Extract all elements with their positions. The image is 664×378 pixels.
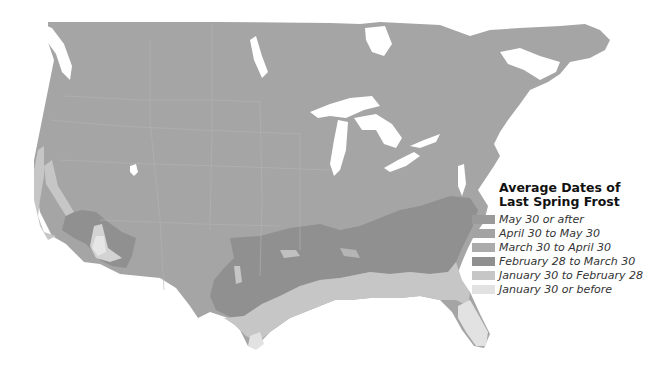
legend-item: April 30 to May 30 [472,226,662,240]
legend-title-line2: Last Spring Frost [499,195,662,209]
legend-title: Average Dates of Last Spring Frost [499,181,662,209]
legend-label: April 30 to May 30 [499,227,600,240]
legend-item: January 30 to February 28 [472,268,662,282]
legend-swatch [472,229,495,238]
legend-swatch [472,215,495,224]
legend-list: May 30 or after April 30 to May 30 March… [472,212,662,296]
legend-item: February 28 to March 30 [472,254,662,268]
legend-item: May 30 or after [472,212,662,226]
legend-label: January 30 or before [499,283,612,296]
legend-title-line1: Average Dates of [499,181,662,195]
legend: Average Dates of Last Spring Frost May 3… [472,181,662,296]
legend-label: February 28 to March 30 [499,255,635,268]
legend-label: March 30 to April 30 [499,241,611,254]
legend-label: May 30 or after [499,213,584,226]
legend-label: January 30 to February 28 [499,269,643,282]
legend-item: January 30 or before [472,282,662,296]
legend-swatch [472,243,495,252]
legend-swatch [472,257,495,266]
legend-item: March 30 to April 30 [472,240,662,254]
legend-swatch [472,285,495,294]
legend-swatch [472,271,495,280]
